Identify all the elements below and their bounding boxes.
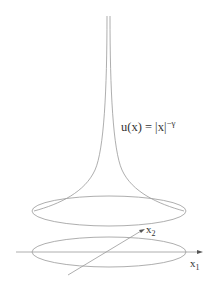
- x2-arrow-icon: [139, 229, 145, 233]
- spike-surface-right: [110, 16, 184, 211]
- x1-arrow-icon: [197, 250, 203, 254]
- spike-surface-left: [34, 16, 107, 211]
- x1-axis-label: x1: [190, 257, 200, 272]
- x2-axis-label: x2: [146, 223, 156, 238]
- x2-axis: [68, 231, 141, 275]
- level-set-ellipse: [32, 196, 186, 226]
- diagram-canvas: u(x) = |x|−γ x2 x1: [0, 0, 212, 290]
- formula-label: u(x) = |x|−γ: [121, 118, 175, 134]
